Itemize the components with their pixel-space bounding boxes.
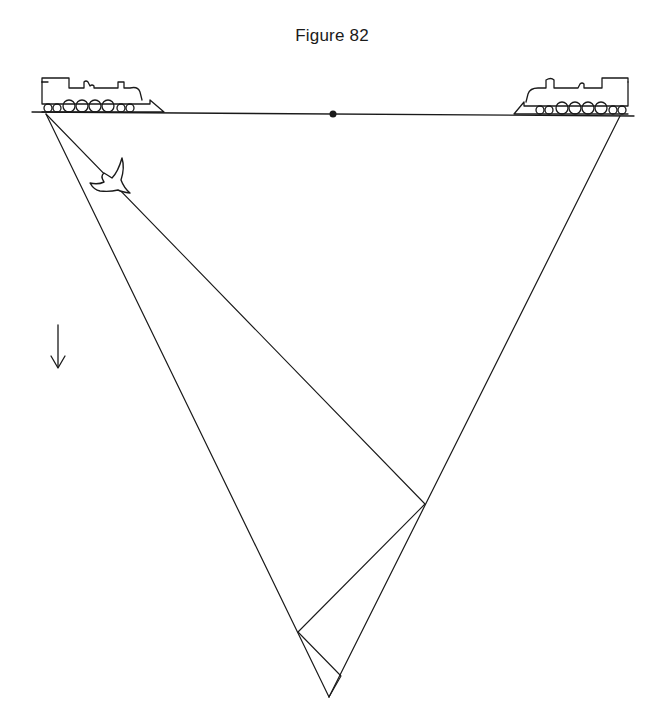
bird-icon bbox=[90, 158, 130, 193]
bird-flight-path bbox=[46, 114, 425, 697]
left-edge-line bbox=[46, 114, 329, 697]
train-bird-diagram bbox=[0, 0, 664, 726]
down-arrow-icon bbox=[51, 325, 65, 368]
midpoint-dot bbox=[330, 111, 337, 118]
right-train-icon bbox=[514, 78, 628, 114]
left-train-icon bbox=[42, 78, 164, 112]
right-edge-line bbox=[329, 116, 620, 697]
